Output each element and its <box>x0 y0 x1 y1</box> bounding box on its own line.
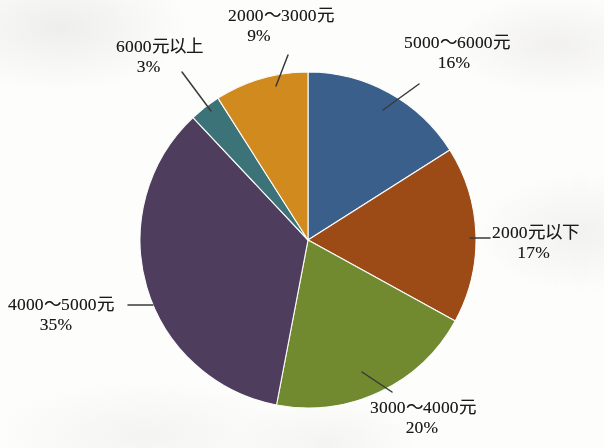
pie-label-2000-3000-name: 2000～3000元 <box>228 5 334 25</box>
pie-chart-figure: 5000～6000元 16% 2000元以下 17% 3000～4000元 20… <box>0 0 604 448</box>
pie-label-4000-5000: 4000～5000元 35% <box>8 294 114 335</box>
pie-label-5000-6000-percent: 16% <box>398 52 510 72</box>
pie-slices-group <box>140 72 476 408</box>
pie-label-3000-4000: 3000～4000元 20% <box>370 397 476 438</box>
pie-label-4000-5000-percent: 35% <box>0 314 114 334</box>
pie-label-6000-up-percent: 3% <box>94 56 203 76</box>
leader-line-6000-up <box>182 72 211 111</box>
pie-label-2000-3000: 2000～3000元 9% <box>228 5 334 46</box>
pie-label-5000-6000: 5000～6000元 16% <box>404 32 510 73</box>
pie-label-2000-3000-percent: 9% <box>184 25 334 45</box>
pie-label-2000-under: 2000元以下 17% <box>492 222 579 263</box>
pie-label-5000-6000-name: 5000～6000元 <box>404 32 510 52</box>
pie-label-2000-under-name: 2000元以下 <box>492 222 579 242</box>
pie-label-4000-5000-name: 4000～5000元 <box>8 294 114 314</box>
pie-label-3000-4000-name: 3000～4000元 <box>370 397 476 417</box>
pie-label-3000-4000-percent: 20% <box>368 417 476 437</box>
pie-label-2000-under-percent: 17% <box>488 242 579 262</box>
